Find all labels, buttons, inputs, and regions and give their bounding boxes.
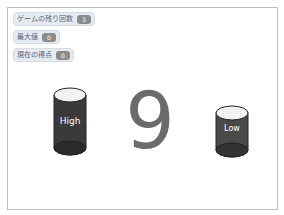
high-button[interactable]: High (52, 86, 88, 158)
monitor-label: 現在の得点 (17, 52, 52, 59)
monitor-current-score: 現在の得点 0 (13, 48, 74, 62)
monitor-value: 3 (77, 15, 91, 24)
monitor-value: 0 (56, 51, 70, 60)
low-label: Low (214, 124, 250, 133)
high-label: High (52, 116, 88, 126)
current-number: 9 (120, 76, 180, 166)
monitor-remaining-games: ゲームの残り回数 3 (13, 12, 95, 26)
monitor-label: ゲームの残り回数 (17, 16, 73, 23)
monitor-value: 0 (42, 33, 56, 42)
scratch-stage: ゲームの残り回数 3 最大値 0 現在の得点 0 High 9 Low (7, 7, 278, 210)
monitor-max-value: 最大値 0 (13, 30, 60, 44)
monitor-label: 最大値 (17, 34, 38, 41)
low-button[interactable]: Low (214, 104, 250, 160)
